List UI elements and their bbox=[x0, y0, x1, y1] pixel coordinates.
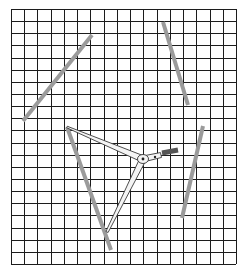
segment-upper-left bbox=[23, 35, 92, 121]
compass-handle bbox=[162, 150, 178, 153]
compass-hinge-pin bbox=[142, 158, 145, 161]
diagram-canvas: Line segments on grid with compass bbox=[0, 0, 245, 277]
compass-pivot-pin bbox=[154, 156, 156, 158]
compass-leg-lower bbox=[106, 158, 146, 233]
grid bbox=[11, 9, 237, 265]
grid-figure bbox=[0, 0, 245, 277]
